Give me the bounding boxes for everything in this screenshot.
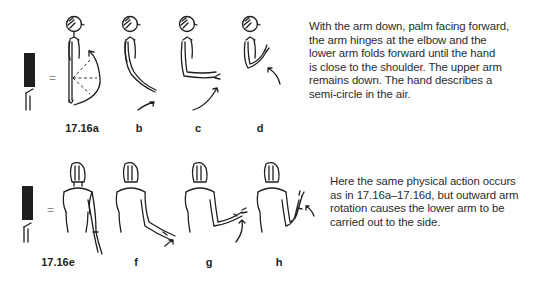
figure-17-16b	[118, 12, 178, 112]
figure-17-16g	[182, 160, 252, 250]
arrow-icon	[268, 68, 280, 84]
direction-symbol-icon	[24, 53, 35, 87]
figure-17-16c	[175, 12, 245, 112]
figure-label-b: b	[132, 122, 146, 134]
figure-17-16h	[254, 160, 324, 250]
arrow-icon	[306, 206, 314, 216]
figure-17-16f	[113, 160, 183, 250]
description-a: With the arm down, palm facing forward, …	[309, 20, 541, 102]
arrow-icon	[165, 240, 173, 246]
description-line: lower arm folds forward until the hand	[309, 47, 541, 61]
figure-17-16a	[62, 12, 112, 112]
figure-label-a: 17.16a	[60, 122, 104, 134]
figure-label-c: c	[191, 122, 205, 134]
description-e: Here the same physical action occurs as …	[330, 175, 541, 229]
description-line: remains down. The hand describes a	[309, 74, 541, 88]
figure-label-f: f	[129, 256, 143, 268]
direction-symbol-icon	[22, 186, 33, 220]
description-line: as in 17.16a–17.16d, but outward arm	[330, 189, 541, 203]
description-line: With the arm down, palm facing forward,	[309, 20, 541, 34]
description-line: is close to the shoulder. The upper arm	[309, 61, 541, 75]
notation-symbol-a	[20, 52, 40, 112]
description-line: Here the same physical action occurs	[330, 175, 541, 189]
description-line: the arm hinges at the elbow and the	[309, 34, 541, 48]
semicircle-path	[73, 51, 100, 105]
figure-17-16e	[60, 160, 110, 250]
notation-symbol-e	[18, 185, 38, 245]
hook-symbol-icon	[26, 89, 33, 110]
figure-17-16d	[238, 12, 298, 112]
figure-label-d: d	[253, 122, 267, 134]
hook-symbol-icon	[24, 223, 31, 242]
arrow-icon	[193, 88, 218, 110]
figure-label-h: h	[272, 256, 286, 268]
arrow-icon	[236, 220, 245, 242]
figure-label-e: 17.16e	[36, 256, 80, 268]
equals-sign-a: =	[49, 71, 56, 85]
description-line: carried out to the side.	[330, 216, 541, 230]
description-line: semi-circle in the air.	[309, 88, 541, 102]
description-line: rotation causes the lower arm to be	[330, 202, 541, 216]
arrow-icon	[138, 102, 154, 110]
equals-sign-e: =	[47, 203, 54, 217]
figure-label-g: g	[202, 256, 216, 268]
